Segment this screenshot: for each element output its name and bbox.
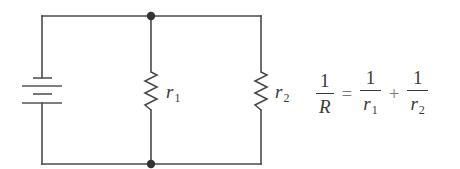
top-junction-node	[147, 12, 155, 20]
r1-label-base: r	[166, 81, 173, 102]
resistor-r2-icon	[255, 72, 267, 110]
term1-den-base: r	[363, 93, 370, 114]
lhs-fraction: 1 R	[316, 71, 334, 117]
parallel-resistance-formula: 1 R = 1 r1 + 1 r2	[316, 68, 428, 120]
plus-sign: +	[389, 83, 400, 105]
battery-icon	[22, 78, 62, 103]
r2-label: r2	[275, 82, 289, 104]
r1-label-sub: 1	[174, 91, 180, 105]
resistor-r1-icon	[145, 72, 157, 110]
fraction-bar	[316, 93, 334, 94]
term2-numerator: 1	[410, 68, 426, 88]
term2-den-base: r	[410, 93, 417, 114]
bottom-junction-node	[147, 160, 155, 168]
term1-numerator: 1	[363, 68, 379, 88]
lhs-denominator: R	[316, 97, 334, 117]
r2-label-sub: 2	[283, 91, 289, 105]
lhs-numerator: 1	[317, 71, 333, 91]
term2-den-sub: 2	[419, 103, 425, 117]
fraction-bar	[407, 90, 427, 91]
equals-sign: =	[342, 83, 353, 105]
term1-denominator: r1	[360, 94, 380, 120]
term1-den-sub: 1	[372, 103, 378, 117]
r2-label-base: r	[275, 81, 282, 102]
fraction-bar	[360, 90, 380, 91]
term2-denominator: r2	[407, 94, 427, 120]
term1-fraction: 1 r1	[360, 68, 380, 120]
term2-fraction: 1 r2	[407, 68, 427, 120]
r1-label: r1	[166, 82, 180, 104]
